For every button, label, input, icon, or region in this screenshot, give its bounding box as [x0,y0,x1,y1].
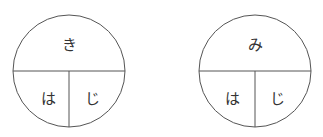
diagram-1-bottom-left-label: は [41,92,56,107]
diagram-2-top-label: み [248,38,263,53]
circle-diagram-2 [199,15,311,127]
diagram-2-bottom-left-label: は [225,92,240,107]
diagram-1-bottom-right-label: じ [85,92,100,107]
diagram-canvas [0,0,323,137]
diagram-1-top-label: き [62,38,77,53]
diagram-2-bottom-right-label: じ [270,92,285,107]
circle-diagram-1 [13,15,125,127]
